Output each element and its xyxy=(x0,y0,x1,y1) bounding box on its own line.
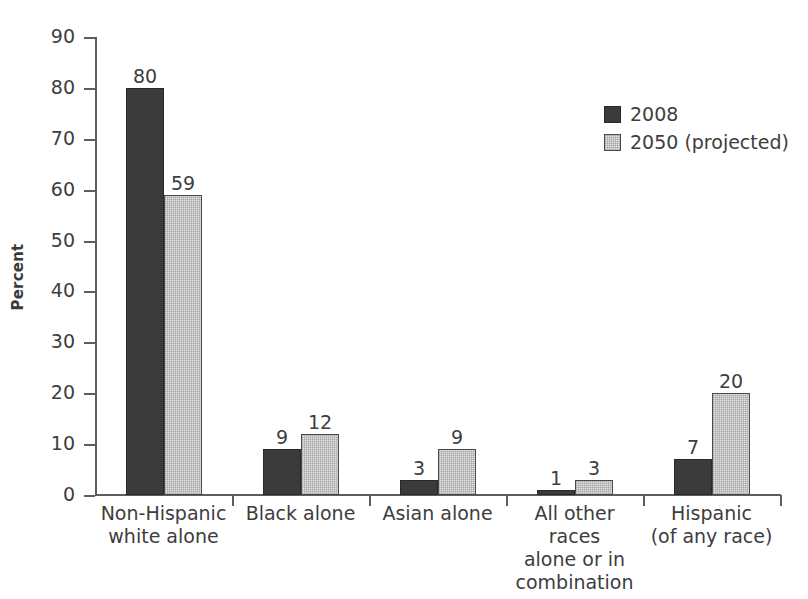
y-tick-mark xyxy=(84,88,95,90)
bar-series-2050: 12 xyxy=(301,434,339,495)
y-tick-label: 10 xyxy=(51,434,75,453)
bar-value-label: 9 xyxy=(276,428,288,447)
bar-value-label: 20 xyxy=(719,372,743,391)
bar-value-label: 80 xyxy=(133,67,157,86)
legend-item-2008: 2008 xyxy=(604,100,789,128)
y-tick-mark xyxy=(84,393,95,395)
bar-series-2050: 59 xyxy=(164,195,202,495)
y-axis-title: Percent xyxy=(9,232,27,322)
bar-chart: Percent 0102030405060708090 805991239137… xyxy=(0,0,808,599)
y-tick-label: 60 xyxy=(51,180,75,199)
y-tick-label: 40 xyxy=(51,281,75,300)
y-tick-mark xyxy=(84,190,95,192)
bar-value-label: 59 xyxy=(171,174,195,193)
legend-swatch-dark-icon xyxy=(604,106,621,123)
bar-series-2050: 9 xyxy=(438,449,476,495)
legend-swatch-light-icon xyxy=(604,134,621,151)
y-tick-label: 0 xyxy=(63,485,75,504)
bar-value-label: 12 xyxy=(308,413,332,432)
y-tick-mark xyxy=(84,444,95,446)
bar-series-2050: 3 xyxy=(575,480,613,495)
x-axis-category-label: All other races alone or in combination xyxy=(506,502,643,594)
legend-item-2050: 2050 (projected) xyxy=(604,128,789,156)
bar-series-2008: 80 xyxy=(126,88,164,495)
legend-label-2050: 2050 (projected) xyxy=(630,133,789,152)
y-tick-mark xyxy=(84,37,95,39)
y-tick-label: 70 xyxy=(51,129,75,148)
y-tick-label: 20 xyxy=(51,383,75,402)
y-tick-mark xyxy=(84,495,95,497)
legend-label-2008: 2008 xyxy=(630,105,678,124)
caption-strip xyxy=(0,585,808,599)
y-tick-mark xyxy=(84,291,95,293)
y-tick-mark xyxy=(84,241,95,243)
y-tick-mark xyxy=(84,139,95,141)
bar-value-label: 3 xyxy=(588,459,600,478)
bar-series-2008: 1 xyxy=(537,490,575,495)
bar-value-label: 9 xyxy=(451,428,463,447)
x-axis-category-label: Non-Hispanic white alone xyxy=(95,502,232,548)
x-axis-group-tick xyxy=(780,495,782,506)
bar-series-2008: 3 xyxy=(400,480,438,495)
y-tick-label: 50 xyxy=(51,231,75,250)
bar-series-2008: 9 xyxy=(263,449,301,495)
bar-value-label: 7 xyxy=(687,438,699,457)
y-tick-mark xyxy=(84,342,95,344)
x-axis-category-label: Hispanic (of any race) xyxy=(643,502,780,548)
legend: 2008 2050 (projected) xyxy=(604,100,789,156)
bar-value-label: 3 xyxy=(413,459,425,478)
bar-value-label: 1 xyxy=(550,469,562,488)
x-axis-category-label: Black alone xyxy=(232,502,369,525)
x-axis-category-label: Asian alone xyxy=(369,502,506,525)
bar-series-2008: 7 xyxy=(674,459,712,495)
y-tick-label: 80 xyxy=(51,78,75,97)
y-tick-label: 90 xyxy=(51,27,75,46)
bar-series-2050: 20 xyxy=(712,393,750,495)
y-tick-label: 30 xyxy=(51,332,75,351)
